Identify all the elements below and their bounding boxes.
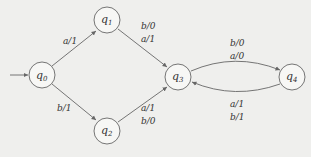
- state-q4: q4: [279, 64, 305, 90]
- label-q3-q4-a: b/0: [230, 38, 245, 48]
- state-diagram: q0 q1 q2 q3 q4 a/1 b/1 b/0 a/1 a/1 b/0 b…: [0, 0, 311, 157]
- label-q2-q3-a: a/1: [141, 103, 155, 113]
- edge-q0-q2: [52, 84, 96, 120]
- state-q2: q2: [94, 118, 120, 144]
- label-q1-q3-a: b/0: [141, 21, 156, 31]
- label-q3-q4-b: a/0: [230, 51, 244, 61]
- edge-q4-q3: [192, 82, 280, 92]
- label-q0-q2: b/1: [57, 103, 72, 113]
- label-q4-q3-b: b/1: [230, 112, 245, 122]
- edge-q3-q4: [191, 61, 280, 71]
- label-q0-q1: a/1: [63, 36, 77, 46]
- state-q1: q1: [94, 7, 120, 33]
- label-q4-q3-a: a/1: [230, 99, 244, 109]
- label-q2-q3-b: b/0: [141, 116, 156, 126]
- label-q1-q3-b: a/1: [141, 34, 155, 44]
- state-q3: q3: [165, 64, 191, 90]
- state-q0: q0: [29, 62, 55, 88]
